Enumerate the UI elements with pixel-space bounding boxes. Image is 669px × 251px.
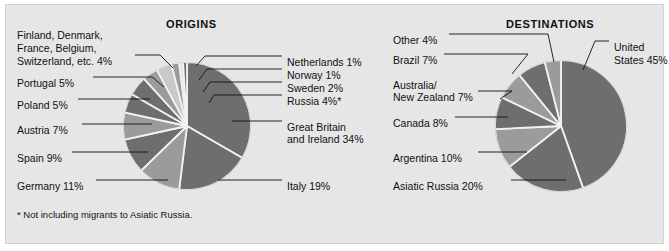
pie-label-destinations-left-6: Asiatic Russia 20%	[393, 180, 483, 193]
pie-label-origins-left-3: Portugal 5%	[17, 77, 74, 90]
pie-label-origins-left-6: Spain 9%	[17, 152, 62, 165]
pie-label-origins-left-2: Switzerland, etc. 4%	[17, 55, 112, 68]
pie-label-destinations-left-4: Canada 8%	[393, 117, 448, 130]
pie-label-origins-right-6: Italy 19%	[287, 180, 330, 193]
chart-title-origins: ORIGINS	[166, 18, 217, 30]
pie-label-origins-left-0: Finland, Denmark,	[17, 29, 103, 42]
pie-label-origins-left-5: Austria 7%	[17, 124, 68, 137]
pie-label-origins-right-0: Netherlands 1%	[287, 56, 362, 69]
pie-label-destinations-left-3: New Zealand 7%	[393, 91, 473, 104]
pie-label-destinations-left-2: Australia/	[393, 79, 437, 92]
pie-label-destinations-left-1: Brazil 7%	[393, 54, 437, 67]
pie-label-origins-left-4: Poland 5%	[17, 99, 68, 112]
pie-label-destinations-left-0: Other 4%	[393, 34, 437, 47]
chart-title-destinations: DESTINATIONS	[506, 18, 594, 30]
pie-label-destinations-right-1: States 45%	[614, 54, 668, 67]
pie-label-origins-left-1: France, Belgium,	[17, 42, 96, 55]
footnote-text: * Not including migrants to Asiatic Russ…	[17, 209, 192, 220]
pie-label-origins-right-1: Norway 1%	[287, 69, 341, 82]
pie-label-destinations-left-5: Argentina 10%	[393, 152, 462, 165]
pie-label-origins-right-5: and Ireland 34%	[287, 133, 363, 146]
pie-label-destinations-right-0: United	[614, 41, 644, 54]
figure-root: ORIGINS DESTINATIONS Finland, Denmark,Fr…	[0, 0, 669, 251]
pie-label-origins-left-7: Germany 11%	[17, 180, 83, 193]
pie-label-origins-right-4: Great Britain	[287, 121, 346, 134]
pie-label-origins-right-2: Sweden 2%	[287, 82, 343, 95]
pie-label-origins-right-3: Russia 4%*	[287, 95, 341, 108]
